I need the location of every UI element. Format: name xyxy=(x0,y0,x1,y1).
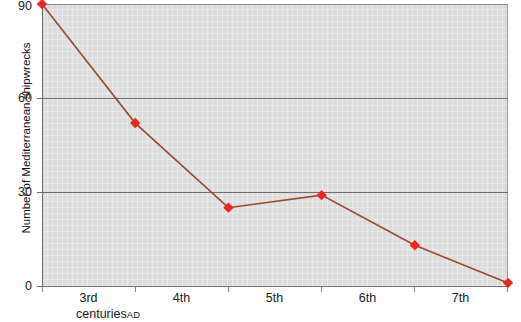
data-point-marker xyxy=(410,240,420,250)
series-markers xyxy=(37,0,513,288)
data-point-marker xyxy=(503,278,513,288)
shipwrecks-line-chart: 90 60 30 0 Number of Mediterranean shipw… xyxy=(0,0,521,322)
data-point-marker xyxy=(316,190,326,200)
series-line xyxy=(42,4,508,283)
data-series-layer xyxy=(0,0,521,322)
